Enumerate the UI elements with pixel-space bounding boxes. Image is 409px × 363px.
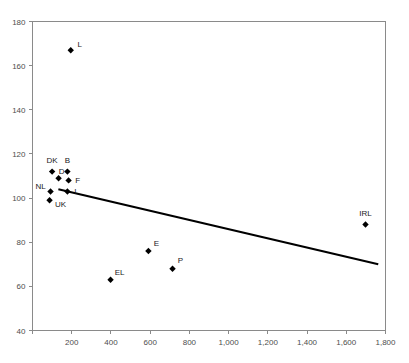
data-point-label: NL: [35, 182, 46, 191]
x-axis-ticks: 2004006008001,0001,2001,4001,6001,800: [33, 331, 397, 347]
y-tick-label: 180: [12, 18, 26, 27]
data-point-label: P: [178, 256, 183, 265]
x-tick-label: 200: [65, 338, 79, 347]
plot-frame: [33, 22, 386, 331]
y-tick-label: 160: [12, 62, 26, 71]
data-point-marker: [68, 47, 74, 53]
y-tick-label: 80: [17, 238, 26, 247]
data-point-label: EL: [115, 268, 125, 277]
data-point-label: DK: [47, 156, 59, 165]
data-point-label: D: [59, 167, 65, 176]
x-tick-label: 1,400: [297, 338, 318, 347]
data-point-marker: [145, 248, 151, 254]
data-point-marker: [169, 266, 175, 272]
data-point-marker: [46, 197, 52, 203]
data-point-marker: [49, 168, 55, 174]
y-tick-label: 60: [17, 282, 26, 291]
chart-canvas: 406080100120140160180 2004006008001,0001…: [0, 0, 409, 363]
y-tick-label: 140: [12, 106, 26, 115]
data-point-label: F: [75, 176, 80, 185]
data-point-label: B: [65, 156, 70, 165]
data-point-label: UK: [55, 200, 67, 209]
data-point-label: L: [78, 40, 83, 49]
y-tick-label: 100: [12, 194, 26, 203]
scatter-chart: 406080100120140160180 2004006008001,0001…: [0, 0, 409, 363]
x-tick-label: 1,000: [219, 338, 240, 347]
trend-line: [58, 189, 378, 264]
y-tick-label: 120: [12, 150, 26, 159]
data-point-marker: [107, 277, 113, 283]
x-tick-label: 1,800: [375, 338, 396, 347]
data-point-marker: [64, 168, 70, 174]
data-point-marker: [64, 188, 70, 194]
x-tick-label: 1,600: [336, 338, 357, 347]
trend-line-segment: [58, 189, 378, 264]
data-point-label: I: [74, 187, 76, 196]
x-tick-label: 600: [143, 338, 157, 347]
data-point-label: E: [154, 239, 159, 248]
data-point-marker: [47, 188, 53, 194]
data-point-marker: [65, 177, 71, 183]
x-tick-label: 800: [183, 338, 197, 347]
x-tick-label: 1,200: [258, 338, 279, 347]
data-point-marker: [362, 221, 368, 227]
y-tick-label: 40: [17, 327, 26, 336]
x-tick-label: 400: [104, 338, 118, 347]
data-points: LDKBDFNLIUKELEPIRL: [35, 40, 372, 283]
data-point-label: IRL: [359, 209, 372, 218]
y-axis-ticks: 406080100120140160180: [12, 18, 32, 336]
